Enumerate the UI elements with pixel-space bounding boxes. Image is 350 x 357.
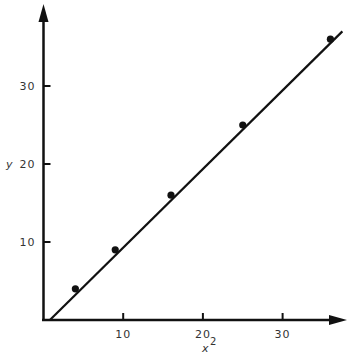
fit-line xyxy=(50,31,342,320)
x-ticks: 102030 xyxy=(115,313,290,341)
x-axis-arrow-icon xyxy=(329,315,347,325)
x-axis-label: x xyxy=(201,342,209,355)
data-point xyxy=(327,36,334,43)
data-points xyxy=(72,36,334,293)
x-tick-label: 30 xyxy=(275,328,291,341)
y-axis-arrow-icon xyxy=(39,4,49,22)
y-ticks: 102030 xyxy=(20,80,51,249)
data-point xyxy=(239,121,246,128)
data-point xyxy=(112,246,119,253)
data-point xyxy=(72,285,79,292)
x-axis-label-superscript: 2 xyxy=(210,336,216,347)
x-tick-label: 10 xyxy=(115,328,131,341)
y-tick-label: 20 xyxy=(20,158,36,171)
chart: 102030 102030 y x 2 xyxy=(0,0,350,357)
y-axis-label: y xyxy=(5,158,13,171)
data-point xyxy=(167,192,174,199)
x-tick-label: 20 xyxy=(195,328,211,341)
y-tick-label: 30 xyxy=(20,80,36,93)
y-tick-label: 10 xyxy=(20,236,36,249)
